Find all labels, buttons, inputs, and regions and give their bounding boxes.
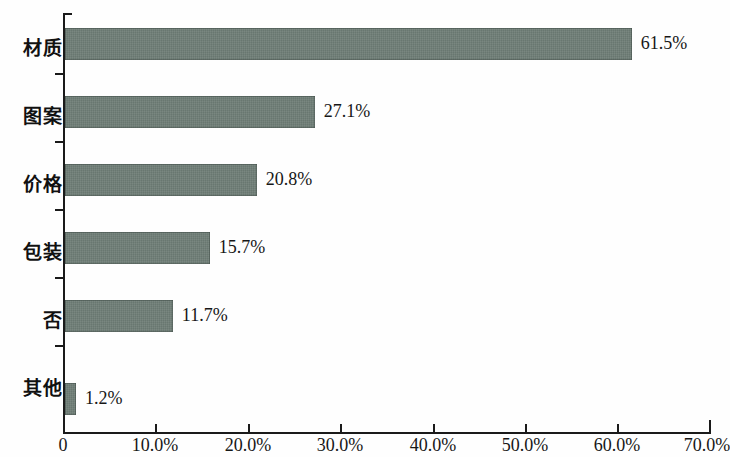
category-label-pattern: 图案 — [0, 101, 62, 128]
x-axis-tick — [248, 424, 250, 433]
x-axis-label-70: 70.0% — [684, 435, 730, 456]
x-axis-label-50: 50.0% — [502, 435, 549, 456]
bar-material — [65, 28, 632, 60]
x-axis-label-20: 20.0% — [225, 435, 272, 456]
bar-other — [65, 383, 76, 415]
value-label-packaging: 15.7% — [219, 237, 266, 258]
x-axis-right-cap — [709, 420, 711, 433]
x-axis-label-60: 60.0% — [594, 435, 641, 456]
x-axis-tick — [617, 424, 619, 433]
y-axis-tick — [55, 209, 64, 211]
x-axis-label-40: 40.0% — [410, 435, 457, 456]
y-axis-tick — [55, 73, 64, 75]
x-axis-label-0: 0 — [59, 435, 68, 456]
category-label-packaging: 包装 — [0, 237, 62, 264]
x-axis-label-10: 10.0% — [132, 435, 179, 456]
bar-pattern — [65, 96, 315, 128]
value-label-price: 20.8% — [266, 169, 313, 190]
bar-no — [65, 300, 173, 332]
x-axis-line — [63, 432, 711, 434]
category-label-material: 材质 — [0, 33, 62, 60]
x-axis-label-30: 30.0% — [317, 435, 364, 456]
x-axis-tick — [525, 424, 527, 433]
x-axis-tick — [155, 424, 157, 433]
y-axis-line — [63, 13, 65, 433]
category-label-no: 否 — [0, 305, 62, 332]
bar-price — [65, 164, 257, 196]
horizontal-bar-chart: 材质 61.5% 图案 27.1% 价格 20.8% 包装 15.7% 否 11… — [0, 0, 730, 457]
value-label-material: 61.5% — [641, 33, 688, 54]
y-axis-tick — [55, 345, 64, 347]
category-label-price: 价格 — [0, 169, 62, 196]
x-axis-tick — [433, 424, 435, 433]
x-axis-tick — [340, 424, 342, 433]
y-axis-top-cap — [63, 13, 72, 15]
category-label-other: 其他 — [0, 373, 62, 400]
y-axis-tick — [55, 277, 64, 279]
y-axis-tick — [55, 141, 64, 143]
x-axis-tick — [63, 424, 65, 433]
bar-packaging — [65, 232, 210, 264]
value-label-other: 1.2% — [85, 388, 123, 409]
value-label-no: 11.7% — [182, 305, 228, 326]
value-label-pattern: 27.1% — [324, 101, 371, 122]
